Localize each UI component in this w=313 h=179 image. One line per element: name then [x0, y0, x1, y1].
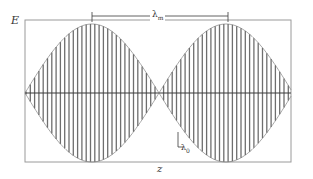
lambda-0-subscript: 0 [186, 147, 190, 154]
plot-area [0, 0, 313, 179]
lambda-m-label: λm [150, 9, 165, 21]
x-axis-label: z [157, 163, 162, 174]
lambda-0-label: λ0 [181, 143, 190, 154]
lambda-m-subscript: m [158, 14, 164, 21]
y-axis-label: E [11, 14, 19, 27]
beat-wave-diagram: E z λm λ0 [0, 0, 313, 179]
